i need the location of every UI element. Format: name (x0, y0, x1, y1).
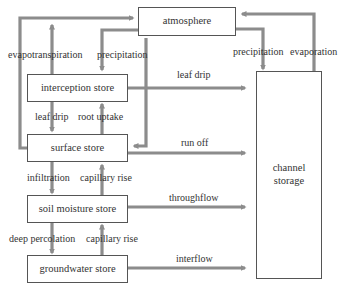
label-infiltration: infiltration (27, 172, 70, 183)
interception-store-node: interception store (27, 74, 128, 102)
label-evaporation: evaporation (290, 46, 337, 57)
groundwater-store-label: groundwater store (39, 263, 115, 276)
channel-storage-label-2: storage (274, 175, 304, 188)
soil-moisture-store-node: soil moisture store (27, 195, 128, 223)
label-run-off: run off (181, 137, 208, 148)
arrow-evaporation (242, 14, 314, 72)
label-precipitation-right: precipitation (233, 46, 284, 57)
label-leaf-drip-down: leaf drip (35, 111, 69, 122)
soil-moisture-store-label: soil moisture store (39, 203, 117, 216)
groundwater-store-node: groundwater store (27, 255, 128, 283)
label-throughflow: throughflow (169, 192, 218, 203)
label-precipitation-left: precipitation (97, 49, 148, 60)
channel-storage-node: channel storage (256, 71, 322, 279)
label-evapotranspiration: evapotranspiration (8, 49, 82, 60)
label-leaf-drip-right: leaf drip (177, 69, 211, 80)
label-root-uptake: root uptake (78, 111, 123, 122)
channel-storage-label-1: channel (273, 162, 306, 175)
atmosphere-node: atmosphere (138, 7, 236, 36)
interception-store-label: interception store (41, 82, 114, 95)
label-capillary-rise-1: capillary rise (80, 172, 132, 183)
atmosphere-label: atmosphere (163, 15, 211, 28)
label-interflow: interflow (176, 253, 213, 264)
surface-store-label: surface store (51, 142, 104, 155)
label-capillary-rise-2: capillary rise (86, 233, 138, 244)
label-deep-percolation: deep percolation (9, 233, 75, 244)
surface-store-node: surface store (27, 134, 128, 162)
